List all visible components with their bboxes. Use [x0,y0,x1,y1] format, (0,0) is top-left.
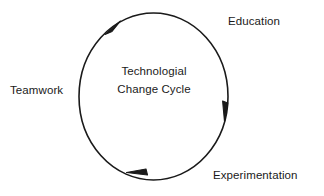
cycle-center-caption: Technologial Change Cycle [79,63,229,99]
cycle-diagram: Technologial Change Cycle Education Team… [0,0,324,196]
cycle-center-caption-line-2: Change Cycle [79,81,229,99]
cycle-center-caption-line-1: Technologial [79,63,229,81]
cycle-label-education: Education [228,14,280,29]
arrowhead-top-left-icon [105,21,121,35]
cycle-label-teamwork: Teamwork [10,83,63,98]
arrowhead-bottom-icon [127,169,148,175]
cycle-label-experimentation: Experimentation [213,168,298,183]
